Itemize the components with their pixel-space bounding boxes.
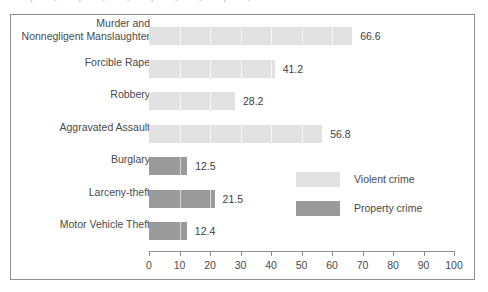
x-axis-tick-label: 90: [418, 259, 430, 271]
bar-container: 66.6: [149, 27, 459, 45]
bar-violent[interactable]: [149, 125, 322, 143]
chart-frame: Murder and Nonnegligent Manslaughter66.6…: [10, 14, 475, 280]
legend-label-property-crime: Property crime: [354, 202, 422, 214]
x-axis-tick: [454, 251, 455, 256]
clipped-text-above-figure: , . , . . , . . , .: [0, 0, 488, 7]
category-label: Motor Vehicle Theft: [0, 218, 150, 231]
category-label: Robbery: [0, 88, 150, 101]
x-axis-tick: [149, 251, 150, 256]
bar-value-label: 12.5: [195, 160, 215, 172]
x-axis-tick: [332, 251, 333, 256]
chart-row: Forcible Rape41.2: [11, 56, 476, 86]
bar-violent[interactable]: [149, 27, 352, 45]
x-axis-tick: [271, 251, 272, 256]
bar-violent[interactable]: [149, 60, 275, 78]
chart-row: Robbery28.2: [11, 88, 476, 118]
chart-plot-area: Murder and Nonnegligent Manslaughter66.6…: [11, 15, 476, 281]
x-axis-tick-label: 30: [235, 259, 247, 271]
x-axis-tick: [302, 251, 303, 256]
bar-container: 41.2: [149, 60, 459, 78]
bar-value-label: 28.2: [243, 95, 263, 107]
bar-segment-separators: [149, 125, 322, 143]
bar-value-label: 12.4: [195, 225, 215, 237]
x-axis-tick-label: 0: [146, 259, 152, 271]
bar-segment-separators: [149, 157, 187, 175]
category-label: Forcible Rape: [0, 56, 150, 69]
x-axis: 0102030405060708090100: [149, 251, 459, 277]
legend-label-violent-crime: Violent crime: [354, 173, 415, 185]
chart-row: Aggravated Assault56.8: [11, 121, 476, 151]
x-axis-tick: [424, 251, 425, 256]
category-label: Burglary: [0, 153, 150, 166]
bar-violent[interactable]: [149, 92, 235, 110]
bar-property[interactable]: [149, 222, 187, 240]
x-axis-tick-label: 20: [204, 259, 216, 271]
x-axis-tick-label: 60: [326, 259, 338, 271]
x-axis-tick-label: 40: [265, 259, 277, 271]
chart-row: Murder and Nonnegligent Manslaughter66.6: [11, 23, 476, 53]
x-axis-tick: [180, 251, 181, 256]
x-axis-tick-label: 50: [296, 259, 308, 271]
bar-container: 12.4: [149, 222, 459, 240]
category-label: Aggravated Assault: [0, 121, 150, 134]
x-axis-tick: [210, 251, 211, 256]
x-axis-tick: [241, 251, 242, 256]
clipped-text-glyphs: , . , . . , . . , .: [30, 0, 259, 3]
legend-swatch-property-crime: [296, 201, 340, 216]
x-axis-tick-label: 100: [445, 259, 463, 271]
legend-swatch-violent-crime: [296, 172, 340, 187]
bar-container: 56.8: [149, 125, 459, 143]
bar-segment-separators: [149, 190, 215, 208]
x-axis-tick: [363, 251, 364, 256]
bar-property[interactable]: [149, 157, 187, 175]
bar-segment-separators: [149, 222, 187, 240]
category-label: Larceny-theft: [0, 186, 150, 199]
bar-segment-separators: [149, 60, 275, 78]
category-label: Murder and Nonnegligent Manslaughter: [0, 17, 150, 42]
bar-value-label: 66.6: [360, 30, 380, 42]
bar-value-label: 21.5: [223, 193, 243, 205]
bar-property[interactable]: [149, 190, 215, 208]
x-axis-tick: [393, 251, 394, 256]
chart-row: Motor Vehicle Theft12.4: [11, 218, 476, 248]
x-axis-tick-label: 10: [174, 259, 186, 271]
x-axis-tick-label: 80: [387, 259, 399, 271]
bar-segment-separators: [149, 92, 235, 110]
x-axis-tick-label: 70: [357, 259, 369, 271]
bar-value-label: 56.8: [330, 128, 350, 140]
bar-segment-separators: [149, 27, 352, 45]
bar-value-label: 41.2: [283, 63, 303, 75]
bar-container: 28.2: [149, 92, 459, 110]
